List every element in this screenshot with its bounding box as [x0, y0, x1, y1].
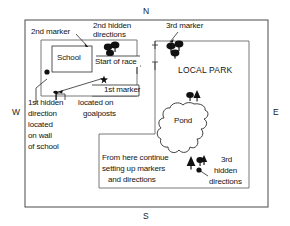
label-located-on-line2: goalposts: [83, 110, 116, 118]
label-from-here-line2: setting up markers: [102, 165, 165, 173]
park-tick-north-west: [152, 41, 158, 49]
compass-west: W: [12, 107, 20, 117]
tree-cluster-pond-north: [186, 90, 200, 101]
label-2nd-marker: 2nd marker: [31, 28, 70, 36]
leader-3rd-marker: [170, 32, 178, 42]
marker-dot-school-wall: [44, 69, 49, 74]
pond-outline: [157, 103, 208, 153]
label-local-park: LOCAL PARK: [178, 66, 232, 75]
label-1st-hidden-line4: on wall: [28, 132, 52, 140]
park-tick-west-upper: [134, 66, 141, 74]
label-from-here-line3: and directions: [108, 176, 156, 184]
label-school: School: [57, 54, 81, 62]
tree-cluster-3rd-marker: [166, 41, 183, 59]
marker-star-start: [100, 76, 108, 84]
compass-south: S: [143, 211, 149, 221]
label-1st-hidden-line3: located: [28, 121, 53, 129]
label-2nd-hidden-directions-line2: directions: [93, 31, 126, 39]
label-1st-hidden-line2: direction: [28, 110, 57, 118]
label-3rd-hidden-line2: hidden: [214, 167, 237, 175]
marker-dot-3rd-hidden: [196, 167, 201, 172]
label-3rd-hidden-line1: 3rd: [221, 156, 232, 164]
park-tick-mid: [152, 62, 158, 70]
label-located-on-line1: located on: [78, 99, 113, 107]
label-from-here-line1: From here continue: [102, 154, 169, 162]
label-3rd-marker: 3rd marker: [166, 22, 203, 30]
label-1st-hidden-line5: of school: [28, 143, 59, 151]
compass-north: N: [143, 6, 149, 16]
compass-east: E: [273, 107, 279, 117]
label-pond: Pond: [174, 117, 192, 125]
map-diagram: N S W E 2nd marker 2nd hidden directions…: [0, 0, 290, 226]
leader-goalposts-head: [58, 90, 63, 94]
label-3rd-hidden-line3: directions: [209, 178, 242, 186]
label-1st-marker: 1st marker: [104, 86, 140, 94]
label-start-of-race: Start of race: [95, 58, 137, 66]
tree-cluster-pond-south: [187, 155, 208, 170]
label-1st-hidden-line1: 1st hidden: [28, 99, 63, 107]
